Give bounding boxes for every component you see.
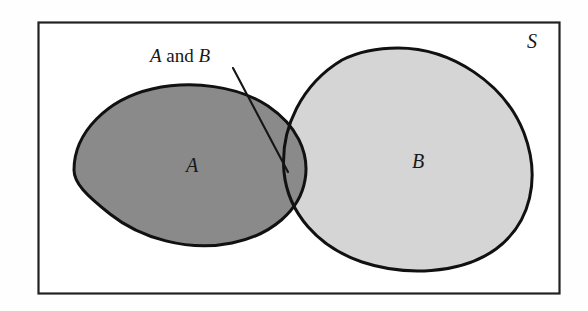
set-a-label: A	[184, 154, 199, 176]
intersection-caption-a: A	[148, 45, 162, 66]
set-b-label: B	[412, 150, 424, 172]
venn-diagram-canvas: A and B A B S	[0, 0, 588, 311]
venn-diagram-figure: A and B A B S	[0, 0, 588, 311]
universal-set-label: S	[527, 30, 537, 52]
intersection-caption: A and B	[148, 45, 211, 66]
intersection-caption-and: and	[166, 45, 194, 66]
intersection-caption-b: B	[199, 45, 211, 66]
